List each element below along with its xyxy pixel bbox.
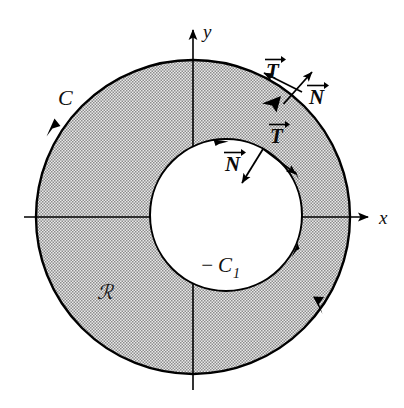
outer-tangent-label: T [266,59,280,83]
inner-curve-subscript: 1 [233,266,240,281]
figure-canvas: x y T [0,0,404,408]
region-label: ℛ [97,280,115,304]
outer-normal-label: N [308,85,325,109]
x-axis-label: x [378,207,388,228]
inner-curve-letter: C [218,253,233,277]
annulus-diagram: x y T [0,0,404,408]
inner-tangent-label: T [270,124,284,148]
y-axis-label: y [201,21,212,42]
inner-curve-minus-sign: − [200,253,214,277]
outer-curve-label: C [58,85,73,110]
inner-normal-label: N [224,152,241,176]
